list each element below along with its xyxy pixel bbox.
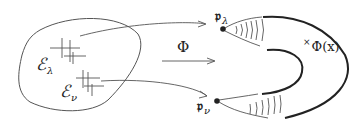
hatch-cluster-lambda	[50, 38, 86, 64]
label-p-lambda: 𝔭λ	[215, 7, 228, 26]
label-phi-x: ×Φ(x)	[303, 38, 340, 54]
diagram-drawing	[0, 0, 363, 125]
ribs-nu	[250, 95, 281, 115]
arrow-to-p-nu	[101, 80, 207, 96]
label-phi: Φ	[177, 40, 189, 55]
point-p-nu	[214, 98, 220, 104]
label-e-lambda: ℰλ	[36, 56, 53, 76]
diagram-canvas: ℰλ ℰν Φ 𝔭λ 𝔭ν ×Φ(x)	[0, 0, 363, 125]
image-outer-curve	[263, 17, 348, 118]
arrow-to-p-lambda	[80, 23, 205, 36]
label-e-nu: ℰν	[60, 83, 77, 103]
image-inner-curve	[262, 50, 302, 94]
point-p-lambda	[220, 26, 226, 32]
hatch-cluster-nu	[76, 70, 104, 96]
label-p-nu: 𝔭ν	[197, 97, 210, 116]
